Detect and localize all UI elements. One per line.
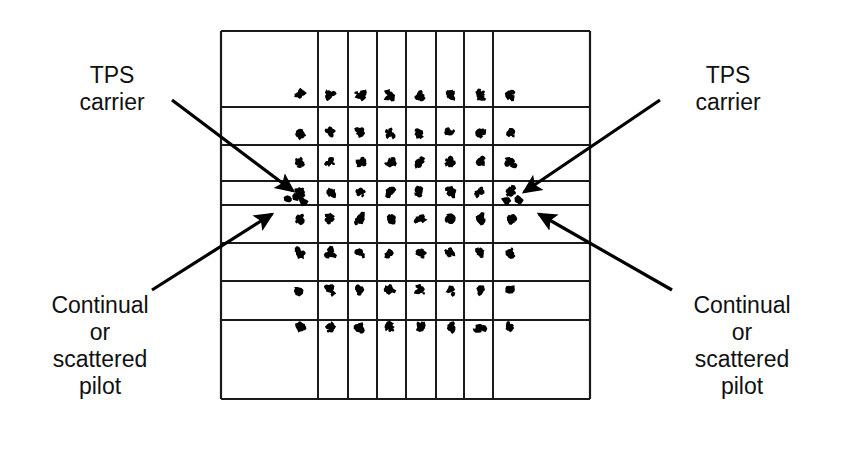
constellation-cluster (505, 285, 514, 293)
label-tps-carrier-right: TPS carrier (668, 62, 788, 116)
label-continual-scattered-pilot-right: Continual or scattered pilot (652, 292, 832, 400)
label-line: Continual (10, 292, 190, 319)
label-line: or (652, 319, 832, 346)
label-line: Continual (652, 292, 832, 319)
label-line: TPS (668, 62, 788, 89)
label-line: scattered (652, 346, 832, 373)
label-line: pilot (652, 373, 832, 400)
label-line: carrier (52, 89, 172, 116)
label-line: carrier (668, 89, 788, 116)
label-tps-carrier-left: TPS carrier (52, 62, 172, 116)
label-line: or (10, 319, 190, 346)
label-continual-scattered-pilot-left: Continual or scattered pilot (10, 292, 190, 400)
constellation-cluster (387, 214, 396, 224)
label-line: pilot (10, 373, 190, 400)
label-line: scattered (10, 346, 190, 373)
label-line: TPS (52, 62, 172, 89)
